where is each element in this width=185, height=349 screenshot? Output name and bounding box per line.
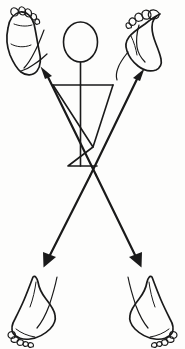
- arrow-upper-left-shaft: [46, 73, 96, 175]
- central-stick-figure: [53, 22, 113, 166]
- foot-bottom-left-shin-line: [37, 277, 57, 328]
- foot-bottom-left-tendon-line: [30, 282, 36, 307]
- foot-top-right-ankle-line: [116, 52, 128, 80]
- foot-top-left-arch-crease: [11, 44, 31, 47]
- diagram-svg: [0, 0, 185, 349]
- arrow-upper-right-shaft: [90, 75, 139, 176]
- figure-torso-triangle: [53, 85, 113, 147]
- foot-bottom-right: [128, 276, 177, 347]
- foot-top-left-heel-line: [21, 54, 47, 71]
- foot-bottom-left: [8, 276, 57, 347]
- foot-top-right-outline: [126, 14, 161, 71]
- foot-top-left-ball-crease: [14, 24, 32, 26]
- diagram-canvas: Stick figure with bidirectional diagonal…: [0, 0, 185, 349]
- arrow-lower-left-shaft: [49, 176, 90, 257]
- foot-top-right-toe-5: [126, 23, 132, 28]
- foot-top-left-toe-5: [35, 19, 40, 24]
- foot-bottom-left-ball-crease: [16, 329, 35, 337]
- arrow-lower-right-shaft: [96, 175, 136, 257]
- foot-top-right-instep-line: [137, 25, 145, 62]
- foot-bottom-right-tendon-line: [149, 282, 155, 307]
- foot-bottom-right-shin-line: [128, 277, 148, 328]
- arrow-upper-left-head: [41, 67, 53, 80]
- foot-bottom-right-ball-crease: [150, 329, 169, 337]
- foot-top-right: [116, 10, 161, 80]
- arrow-upper-right-head: [133, 69, 145, 82]
- figure-head: [64, 22, 98, 62]
- arrow-lower-right: [96, 175, 142, 268]
- arrow-upper-left: [41, 67, 97, 176]
- arrow-lower-left: [43, 176, 90, 268]
- foot-top-left: [7, 7, 47, 75]
